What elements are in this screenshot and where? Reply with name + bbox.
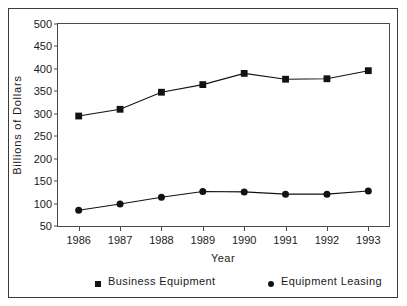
- plot-area: 5004504003503002502001501005019861987198…: [57, 23, 390, 227]
- y-axis-tick-label: 350: [34, 85, 52, 97]
- y-axis-tick-mark: [54, 203, 58, 204]
- legend-marker-square-icon: [95, 281, 101, 287]
- series-lines: [58, 24, 389, 226]
- y-axis-tick-label: 100: [34, 198, 52, 210]
- x-axis-tick-mark: [79, 226, 80, 231]
- data-point-marker: [241, 188, 248, 195]
- figure-chart: 5004504003503002502001501005019861987198…: [0, 0, 407, 306]
- y-axis-tick-mark: [54, 181, 58, 182]
- x-axis-tick-label: 1989: [191, 234, 215, 246]
- x-axis-tick-label: 1993: [356, 234, 380, 246]
- legend-marker-circle-icon: [268, 281, 274, 287]
- data-point-marker: [117, 201, 124, 208]
- y-axis-tick-label: 250: [34, 130, 52, 142]
- y-axis-tick-mark: [54, 46, 58, 47]
- data-point-marker: [158, 194, 165, 201]
- x-axis-tick-mark: [327, 226, 328, 231]
- x-axis-tick-label: 1988: [149, 234, 173, 246]
- clipped-header-text: [10, 0, 390, 5]
- x-axis-tick-mark: [244, 226, 245, 231]
- data-point-marker: [199, 81, 206, 88]
- legend-label: Business Equipment: [108, 275, 215, 287]
- x-axis-tick-mark: [203, 226, 204, 231]
- data-point-marker: [199, 188, 206, 195]
- x-axis-tick-label: 1986: [66, 234, 90, 246]
- y-axis-tick-label: 200: [34, 153, 52, 165]
- x-axis-tick-mark: [120, 226, 121, 231]
- y-axis-label: Billions of Dollars: [11, 75, 23, 175]
- x-axis-tick-mark: [286, 226, 287, 231]
- data-point-marker: [282, 191, 289, 198]
- y-axis-tick-mark: [54, 158, 58, 159]
- y-axis-tick-mark: [54, 24, 58, 25]
- y-axis-tick-label: 50: [40, 220, 52, 232]
- data-point-marker: [75, 113, 82, 120]
- x-axis-tick-mark: [161, 226, 162, 231]
- x-axis-tick-label: 1992: [315, 234, 339, 246]
- chart-legend: Business EquipmentEquipment Leasing: [20, 275, 386, 291]
- data-point-marker: [365, 67, 372, 74]
- data-point-marker: [324, 75, 331, 82]
- y-axis-tick-mark: [54, 226, 58, 227]
- y-axis-tick-label: 300: [34, 108, 52, 120]
- data-point-marker: [282, 76, 289, 83]
- data-point-marker: [365, 187, 372, 194]
- y-axis-tick-label: 400: [34, 63, 52, 75]
- data-point-marker: [158, 89, 165, 96]
- data-point-marker: [75, 207, 82, 214]
- legend-label: Equipment Leasing: [281, 275, 382, 287]
- y-axis-tick-mark: [54, 68, 58, 69]
- data-point-marker: [241, 70, 248, 77]
- x-axis-tick-label: 1987: [108, 234, 132, 246]
- data-point-marker: [117, 106, 124, 113]
- y-axis-tick-label: 150: [34, 175, 52, 187]
- x-axis-tick-label: 1990: [232, 234, 256, 246]
- y-axis-tick-mark: [54, 113, 58, 114]
- x-axis-tick-label: 1991: [273, 234, 297, 246]
- x-axis-label: Year: [211, 252, 235, 264]
- y-axis-tick-mark: [54, 91, 58, 92]
- data-point-marker: [323, 191, 330, 198]
- x-axis-tick-mark: [368, 226, 369, 231]
- y-axis-tick-label: 500: [34, 18, 52, 30]
- y-axis-tick-label: 450: [34, 40, 52, 52]
- y-axis-tick-mark: [54, 136, 58, 137]
